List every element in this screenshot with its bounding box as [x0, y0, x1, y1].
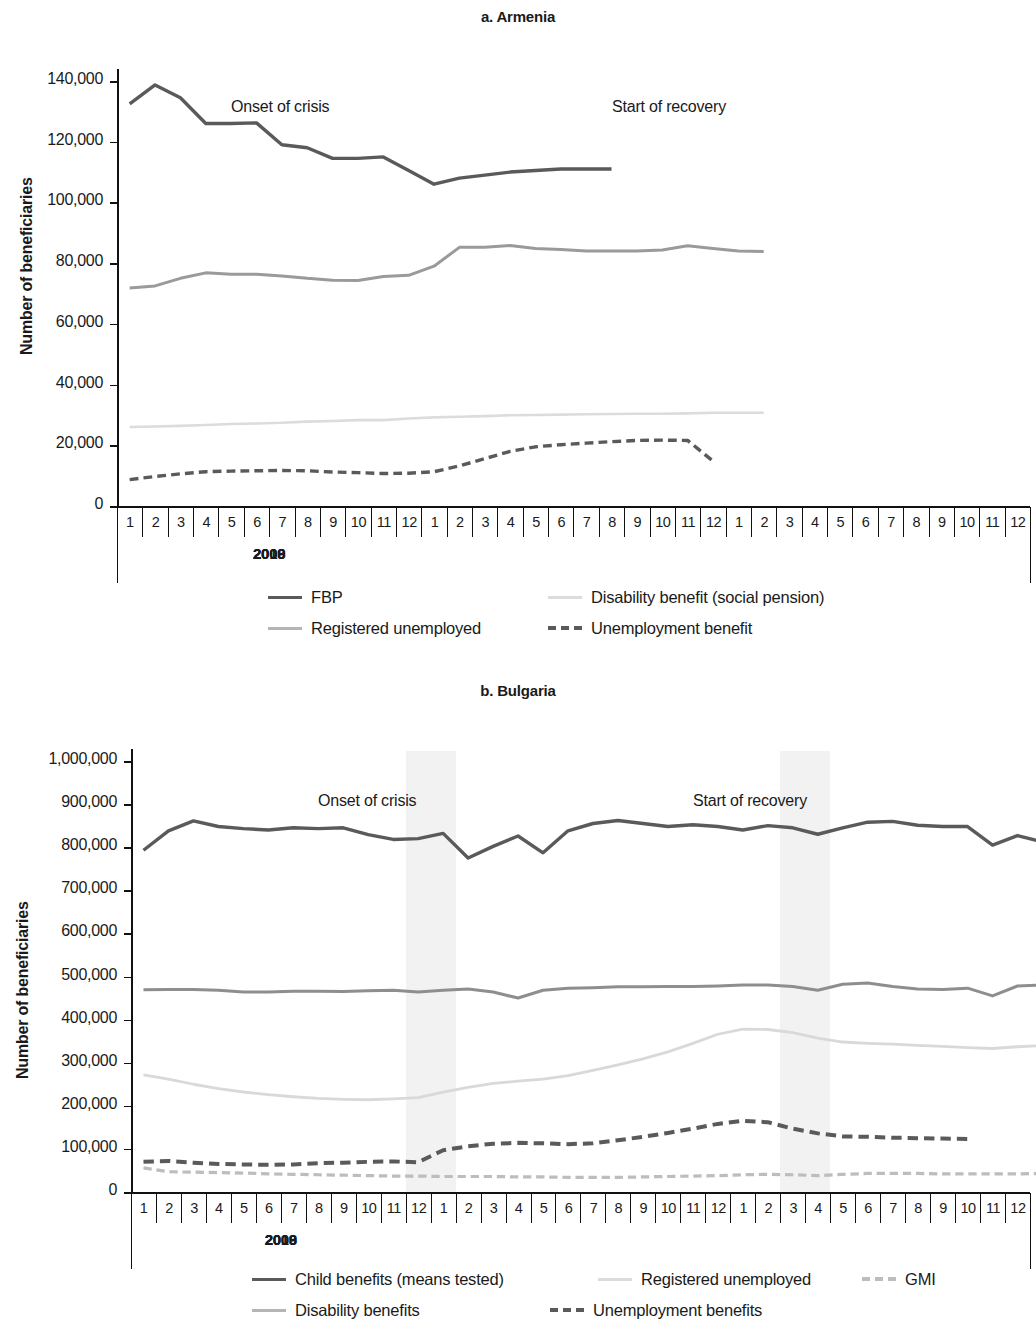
month-tick-label: 12: [700, 507, 725, 537]
chart-a-title: a. Armenia: [0, 0, 1036, 25]
month-tick-label: 6: [548, 507, 573, 537]
month-tick-label: 10: [356, 1193, 381, 1223]
month-tick-row: 1234567891011121234567891011121234567891…: [131, 1193, 1030, 1223]
legend-swatch-solid-line-icon: [268, 596, 302, 599]
month-tick-label: 3: [168, 507, 193, 537]
legend-item[interactable]: GMI: [862, 1270, 936, 1289]
month-tick-label: 5: [827, 507, 852, 537]
series-line: [143, 820, 1036, 857]
month-tick-label: 10: [650, 507, 675, 537]
month-tick-label: 1: [117, 507, 142, 537]
legend-label: Registered unemployed: [311, 619, 481, 638]
axis-edge-tick: [117, 507, 118, 583]
month-tick-label: 6: [244, 507, 269, 537]
month-tick-label: 10: [345, 507, 370, 537]
legend-item[interactable]: Unemployment benefit: [548, 619, 752, 638]
legend-label: GMI: [905, 1270, 936, 1289]
legend-item[interactable]: Disability benefits: [252, 1301, 420, 1320]
month-tick-label: 1: [726, 507, 751, 537]
axis-edge-tick: [1030, 507, 1031, 583]
legend-label: Unemployment benefit: [591, 619, 752, 638]
legend-label: Child benefits (means tested): [295, 1270, 504, 1289]
legend-item[interactable]: Registered unemployed: [268, 619, 481, 638]
month-tick-label: 12: [396, 507, 421, 537]
month-tick-label: 8: [605, 1193, 630, 1223]
legend-item[interactable]: FBP: [268, 588, 343, 607]
month-tick-label: 6: [555, 1193, 580, 1223]
chart-annotation: Start of recovery: [693, 792, 807, 810]
axis-edge-tick: [131, 1193, 132, 1269]
month-tick-label: 6: [256, 1193, 281, 1223]
month-tick-label: 7: [269, 507, 294, 537]
series-line: [143, 1168, 1036, 1177]
month-tick-label: 12: [1005, 1193, 1030, 1223]
month-tick-label: 10: [955, 1193, 980, 1223]
month-tick-label: 7: [878, 507, 903, 537]
month-tick-label: 12: [406, 1193, 431, 1223]
month-tick-label: 4: [193, 507, 218, 537]
series-line: [143, 1121, 967, 1165]
month-tick-label: 4: [805, 1193, 830, 1223]
month-tick-label: 5: [523, 507, 548, 537]
month-tick-label: 9: [331, 1193, 356, 1223]
month-tick-label: 12: [1005, 507, 1030, 537]
chart-b-series-layer: [0, 699, 1036, 1323]
legend-item[interactable]: Registered unemployed: [598, 1270, 811, 1289]
year-label: 2010: [131, 1231, 431, 1248]
legend-label: Disability benefit (social pension): [591, 588, 824, 607]
month-tick-label: 3: [181, 1193, 206, 1223]
legend-label: FBP: [311, 588, 343, 607]
month-tick-label: 8: [295, 507, 320, 537]
chart-panel-armenia: a. Armenia Number of beneficiaries 020,0…: [0, 0, 1036, 650]
month-tick-label: 8: [599, 507, 624, 537]
month-tick-label: 7: [580, 1193, 605, 1223]
month-tick-label: 2: [156, 1193, 181, 1223]
legend-label: Disability benefits: [295, 1301, 420, 1320]
chart-a-series-layer: [0, 25, 1036, 665]
month-tick-label: 11: [371, 507, 396, 537]
month-tick-label: 9: [630, 1193, 655, 1223]
legend-label: Unemployment benefits: [593, 1301, 762, 1320]
month-tick-label: 9: [929, 507, 954, 537]
month-tick-label: 6: [852, 507, 877, 537]
month-tick-label: 7: [880, 1193, 905, 1223]
month-tick-label: 11: [381, 1193, 406, 1223]
month-tick-label: 8: [905, 1193, 930, 1223]
month-tick-label: 6: [855, 1193, 880, 1223]
month-tick-label: 1: [431, 1193, 456, 1223]
month-tick-label: 4: [497, 507, 522, 537]
legend-item[interactable]: Disability benefit (social pension): [548, 588, 824, 607]
legend-item[interactable]: Child benefits (means tested): [252, 1270, 504, 1289]
month-tick-label: 7: [281, 1193, 306, 1223]
month-tick-label: 4: [206, 1193, 231, 1223]
month-tick-label: 1: [131, 1193, 156, 1223]
month-tick-label: 3: [780, 1193, 805, 1223]
chart-annotation: Onset of crisis: [231, 98, 329, 116]
month-tick-label: 2: [751, 507, 776, 537]
month-tick-label: 5: [531, 1193, 556, 1223]
month-tick-label: 11: [979, 507, 1004, 537]
month-tick-label: 2: [142, 507, 167, 537]
month-tick-label: 9: [930, 1193, 955, 1223]
month-tick-label: 8: [306, 1193, 331, 1223]
series-line: [130, 440, 713, 479]
legend-swatch-solid-line-icon: [252, 1278, 286, 1281]
legend-swatch-solid-line-icon: [268, 627, 302, 630]
month-tick-label: 7: [573, 507, 598, 537]
legend-swatch-solid-line-icon: [252, 1309, 286, 1312]
axis-edge-tick: [1030, 1193, 1031, 1269]
chart-panel-bulgaria: b. Bulgaria Number of beneficiaries 0100…: [0, 660, 1036, 1299]
chart-annotation: Onset of crisis: [318, 792, 416, 810]
month-tick-label: 2: [755, 1193, 780, 1223]
month-tick-label: 5: [231, 1193, 256, 1223]
month-tick-label: 12: [705, 1193, 730, 1223]
month-tick-label: 8: [903, 507, 928, 537]
month-tick-label: 10: [954, 507, 979, 537]
month-tick-label: 3: [481, 1193, 506, 1223]
month-tick-label: 1: [421, 507, 446, 537]
legend-item[interactable]: Unemployment benefits: [550, 1301, 762, 1320]
legend-label: Registered unemployed: [641, 1270, 811, 1289]
month-tick-label: 1: [730, 1193, 755, 1223]
chart-b-title: b. Bulgaria: [0, 660, 1036, 699]
month-tick-row: 1234567891011121234567891011121234567891…: [117, 507, 1030, 537]
